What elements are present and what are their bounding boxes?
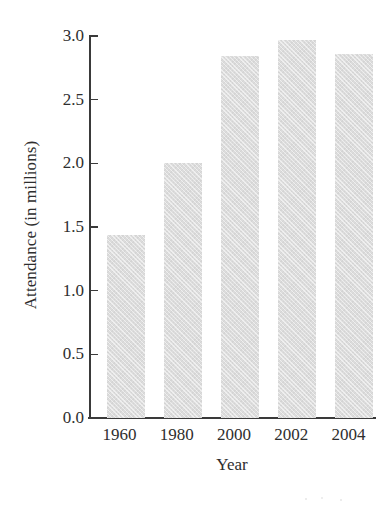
y-axis-tick-label: 0.0 xyxy=(40,409,84,426)
scan-artifact xyxy=(300,495,360,503)
bar xyxy=(164,163,202,418)
x-axis-tick-label: 1980 xyxy=(148,424,205,446)
x-axis-tick-labels: 19601980200020022004 xyxy=(89,424,375,448)
plot-area xyxy=(89,36,375,418)
x-axis-tick-label: 2000 xyxy=(205,424,262,446)
y-axis-tick-label: 2.0 xyxy=(40,154,84,171)
bar xyxy=(221,56,259,418)
y-axis-tick-label: 0.5 xyxy=(40,345,84,362)
bar-chart-figure: Attendance (in millions) 3.02.52.01.51.0… xyxy=(0,0,392,515)
bar xyxy=(278,40,316,418)
x-axis-tick-label: 2002 xyxy=(263,424,320,446)
y-axis-tick-label: 2.5 xyxy=(40,91,84,108)
y-axis-tick-label: 1.0 xyxy=(40,282,84,299)
y-axis-tick-label: 3.0 xyxy=(40,27,84,44)
bar xyxy=(107,235,145,418)
y-axis-tick-label: 1.5 xyxy=(40,218,84,235)
x-axis-title: Year xyxy=(89,455,375,475)
bar xyxy=(335,54,373,418)
x-axis-tick-label: 2004 xyxy=(320,424,377,446)
x-axis-tick-label: 1960 xyxy=(91,424,148,446)
y-axis-tick-labels: 3.02.52.01.51.00.50.0 xyxy=(38,0,84,515)
